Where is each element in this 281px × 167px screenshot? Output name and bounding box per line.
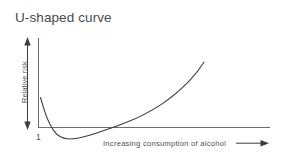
- chart-figure: U-shaped curve Relative risk 1 Increasin…: [0, 0, 281, 167]
- arrow-up-icon: [24, 37, 30, 46]
- arrow-right-icon: [261, 140, 270, 147]
- y-axis-label: Relative risk: [20, 61, 29, 103]
- plot-area: Relative risk 1 Increasing consumption o…: [0, 0, 281, 167]
- y-axis-tick-label-one: 1: [36, 132, 41, 142]
- arrow-down-icon: [24, 122, 30, 131]
- x-axis-label: Increasing consumption of alcohol: [103, 139, 226, 148]
